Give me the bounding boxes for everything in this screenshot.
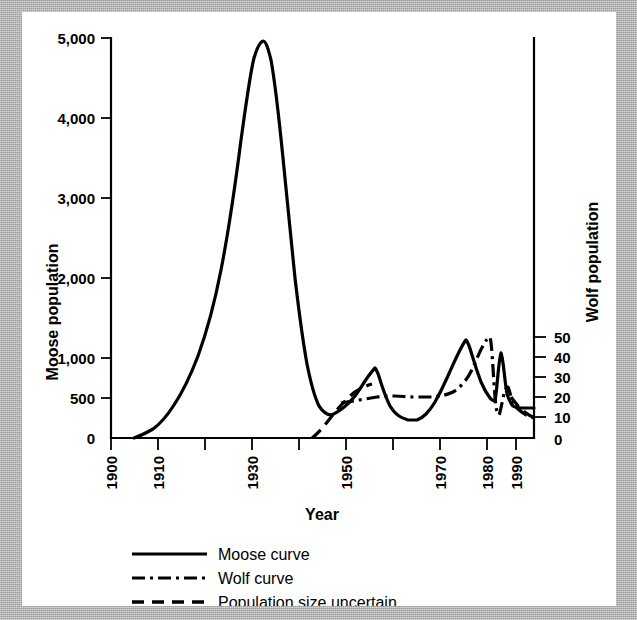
x-tick-label-1930: 1930 (244, 456, 261, 489)
right-tick-label-10: 10 (554, 409, 571, 426)
figure-outer-frame: 5,000 4,000 3,000 2,000 1,000 500 0 50 4… (0, 0, 637, 620)
x-ticks (111, 438, 516, 450)
right-tick-label-50: 50 (554, 329, 571, 346)
x-tick-label-1910: 1910 (150, 456, 167, 489)
chart-legend: Moose curve Wolf curve Population size u… (132, 546, 397, 606)
right-tick-label-0: 0 (554, 431, 562, 448)
left-y-ticks (101, 38, 111, 398)
left-tick-label-3000: 3,000 (57, 190, 95, 207)
y-axis-title-left: Moose population (44, 244, 61, 381)
x-tick-label-1900: 1900 (103, 456, 120, 489)
x-tick-label-1990: 1990 (508, 456, 525, 489)
x-tick-label-1980: 1980 (479, 456, 496, 489)
x-tick-label-1970: 1970 (432, 456, 449, 489)
legend-entry-moose-curve: Moose curve (132, 546, 310, 563)
x-tick-labels: 1900 1910 1930 1950 1970 1980 1990 (103, 456, 525, 489)
figure-white-card: 5,000 4,000 3,000 2,000 1,000 500 0 50 4… (22, 12, 616, 606)
left-tick-label-0: 0 (87, 430, 95, 447)
right-y-tick-labels: 50 40 30 20 10 0 (554, 329, 571, 448)
x-axis-title: Year (305, 506, 339, 523)
population-line-chart: 5,000 4,000 3,000 2,000 1,000 500 0 50 4… (22, 12, 616, 606)
series-line-moose-curve-early (134, 41, 331, 438)
left-tick-label-2000: 2,000 (57, 270, 95, 287)
legend-label-population-uncertain: Population size uncertain (218, 594, 397, 606)
series-line-moose-curve-late (331, 340, 534, 420)
legend-entry-wolf-curve: Wolf curve (132, 570, 293, 587)
left-tick-label-5000: 5,000 (57, 30, 95, 47)
left-y-tick-labels: 5,000 4,000 3,000 2,000 1,000 500 0 (57, 30, 95, 447)
legend-entry-population-uncertain: Population size uncertain (132, 594, 397, 606)
right-tick-label-30: 30 (554, 369, 571, 386)
right-tick-label-40: 40 (554, 349, 571, 366)
y-axis-title-right: Wolf population (584, 202, 601, 323)
right-y-ticks (534, 337, 546, 417)
left-tick-label-1000: 1,000 (57, 350, 95, 367)
legend-label-wolf-curve: Wolf curve (218, 570, 293, 587)
left-tick-label-500: 500 (70, 390, 95, 407)
right-tick-label-20: 20 (554, 389, 571, 406)
left-tick-label-4000: 4,000 (57, 110, 95, 127)
legend-label-moose-curve: Moose curve (218, 546, 310, 563)
x-tick-label-1950: 1950 (338, 456, 355, 489)
